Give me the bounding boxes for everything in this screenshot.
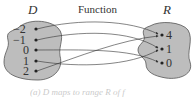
domain-label: D [28, 2, 37, 18]
figure-caption: (a) D maps to range R of f [30, 87, 125, 97]
range-value-1: 1 [166, 42, 172, 57]
range-label: R [163, 2, 171, 18]
range-set-blob [138, 23, 191, 79]
diagram-title: Function [78, 3, 117, 15]
domain-value-2: 2 [23, 64, 29, 79]
range-value-4: 4 [166, 28, 172, 43]
range-value-0: 0 [166, 56, 172, 71]
